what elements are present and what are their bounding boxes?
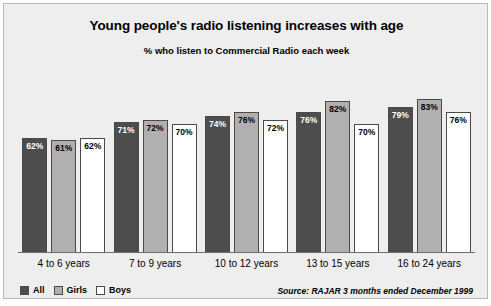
bar-groups: 62%61%62%71%72%70%74%76%72%76%82%70%79%8… (18, 68, 475, 253)
bar[interactable]: 62% (22, 138, 47, 253)
bar-value-label: 76% (235, 116, 258, 125)
bar-value-label: 71% (115, 126, 138, 135)
bar-value-label: 70% (173, 128, 196, 137)
category-label: 13 to 15 years (292, 258, 383, 269)
legend-label: Boys (109, 285, 131, 295)
legend-label: All (33, 285, 45, 295)
bar-group: 62%61%62% (22, 68, 105, 253)
bar-group: 71%72%70% (114, 68, 197, 253)
bar[interactable]: 70% (354, 124, 379, 254)
bar-value-label: 83% (418, 103, 441, 112)
legend-swatch-icon (20, 286, 29, 295)
chart-subtitle: % who listen to Commercial Radio each we… (4, 45, 489, 56)
plot-area: 62%61%62%71%72%70%74%76%72%76%82%70%79%8… (18, 68, 475, 253)
legend-item-boys: Boys (96, 285, 131, 295)
bar[interactable]: 72% (263, 120, 288, 253)
legend-item-girls: Girls (54, 285, 88, 295)
bar[interactable]: 79% (388, 107, 413, 253)
legend-swatch-icon (96, 286, 105, 295)
category-label: 7 to 9 years (110, 258, 201, 269)
bar-value-label: 72% (264, 124, 287, 133)
category-label: 4 to 6 years (18, 258, 109, 269)
category-label: 10 to 12 years (201, 258, 292, 269)
bar[interactable]: 76% (296, 112, 321, 253)
bar-value-label: 76% (297, 116, 320, 125)
category-axis-labels: 4 to 6 years 7 to 9 years 10 to 12 years… (18, 258, 475, 269)
bar-value-label: 70% (355, 128, 378, 137)
bar[interactable]: 70% (172, 124, 197, 254)
bar-value-label: 79% (389, 111, 412, 120)
bar-value-label: 61% (52, 144, 75, 153)
bar[interactable]: 72% (143, 120, 168, 253)
bar-value-label: 76% (447, 116, 470, 125)
chart-legend: All Girls Boys (20, 285, 131, 295)
bar-value-label: 62% (23, 142, 46, 151)
bar[interactable]: 76% (446, 112, 471, 253)
category-label: 16 to 24 years (384, 258, 475, 269)
bar[interactable]: 83% (417, 99, 442, 253)
legend-swatch-icon (54, 286, 63, 295)
bar-group: 74%76%72% (205, 68, 288, 253)
x-axis-baseline (18, 252, 475, 253)
chart-panel: Young people's radio listening increases… (3, 3, 488, 299)
legend-item-all: All (20, 285, 45, 295)
bar-value-label: 82% (326, 105, 349, 114)
bar[interactable]: 61% (51, 140, 76, 253)
bar[interactable]: 62% (80, 138, 105, 253)
bar[interactable]: 76% (234, 112, 259, 253)
bar-value-label: 74% (206, 120, 229, 129)
bar[interactable]: 71% (114, 122, 139, 253)
bar-group: 79%83%76% (388, 68, 471, 253)
bar-value-label: 72% (144, 124, 167, 133)
bar-group: 76%82%70% (296, 68, 379, 253)
chart-title: Young people's radio listening increases… (4, 18, 489, 33)
source-note: Source: RAJAR 3 months ended December 19… (277, 286, 473, 296)
bar-value-label: 62% (81, 142, 104, 151)
legend-label: Girls (67, 285, 88, 295)
bar[interactable]: 74% (205, 116, 230, 253)
bar[interactable]: 82% (325, 101, 350, 253)
